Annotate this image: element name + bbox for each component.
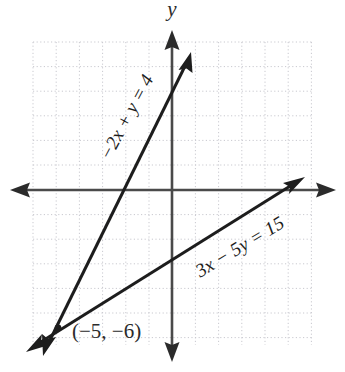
line-1-graph: [42, 52, 193, 356]
line-1-equation-label: −2x + y = 4: [95, 70, 158, 163]
y-axis-arrow-down-icon: [165, 342, 180, 362]
line-2-arrow-right-icon: [283, 177, 305, 194]
line-2-equation-label: 3x − 5y = 15: [191, 212, 288, 282]
y-axis-label: y: [165, 0, 177, 21]
intersection-point-label: (−5, −6): [72, 319, 141, 343]
intersection-point-dot: [55, 325, 62, 332]
y-axis-arrow-up-icon: [165, 30, 180, 50]
x-axis-arrow-right-icon: [316, 183, 336, 198]
x-axis-arrow-left-icon: [10, 183, 30, 198]
coordinate-graph-figure: y −2x + y = 4 3x − 5y = 15 (−5, −6): [0, 0, 345, 372]
line-2-graph: [26, 177, 305, 352]
line-1-segment: [50, 62, 187, 340]
line-1-arrow-up-icon: [179, 52, 193, 73]
